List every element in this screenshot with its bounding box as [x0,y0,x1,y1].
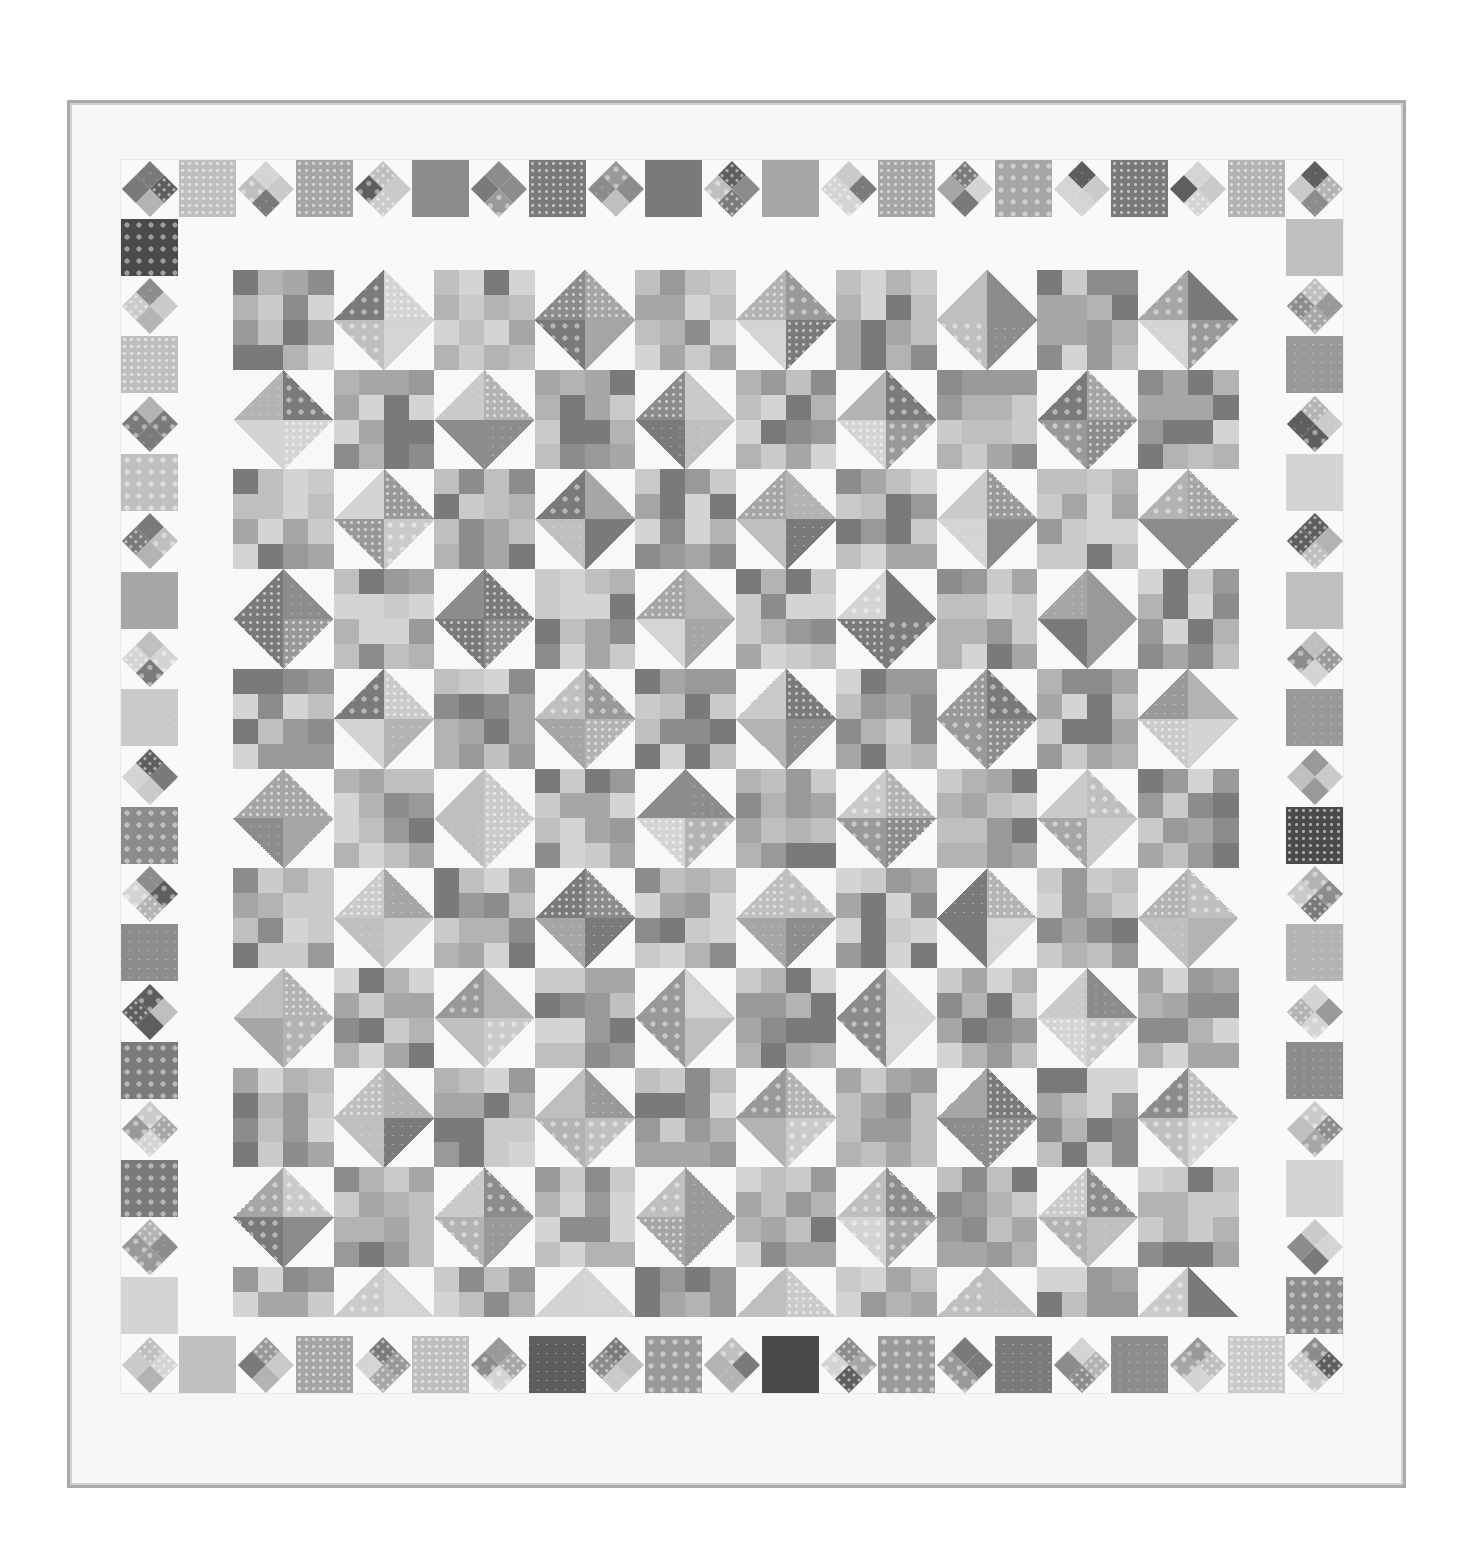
four-patch-square [484,345,510,370]
four-patch-square [861,544,887,569]
half-square-triangle [585,719,636,769]
half-square-triangle [585,1068,636,1118]
half-square-triangle [334,469,385,519]
four-patch [786,569,837,619]
four-patch-square [535,619,561,644]
four-patch [1087,469,1138,519]
four-patch-square [1138,968,1164,993]
half-square-triangle [585,469,636,519]
four-patch-square [535,843,561,868]
fabric-print [434,569,485,619]
four-patch-square [509,1267,535,1292]
four-patch-square [786,370,812,395]
four-patch-square [886,893,912,918]
four-patch-square [1213,1217,1239,1242]
four-patch-square [459,1142,485,1167]
four-patch-square [560,993,586,1018]
four-patch-square [786,769,812,794]
half-square-triangle [987,519,1038,569]
fabric-print [535,918,586,968]
four-patch [484,669,535,719]
fabric-print [1188,469,1239,519]
four-patch-square [585,818,611,843]
four-patch-square [560,1043,586,1068]
four-patch [937,569,988,619]
four-patch-square [459,918,485,943]
fabric-print [786,519,837,569]
four-patch-square [987,1167,1013,1192]
four-patch-square [736,1167,762,1192]
fabric-print [1138,918,1189,968]
four-patch-square [610,1242,636,1267]
half-square-triangle [535,1118,586,1168]
half-square-triangle [484,370,535,420]
four-patch [585,818,636,868]
half-square-triangle [937,669,988,719]
four-patch [434,270,485,320]
four-patch [1138,370,1189,420]
four-patch-square [736,1018,762,1043]
fabric-print [384,1118,435,1168]
four-patch [1188,370,1239,420]
four-patch-square [484,918,510,943]
four-patch-square [911,1267,937,1292]
fabric-print [987,469,1038,519]
half-square-triangle [1188,320,1239,370]
half-square-triangle [1138,320,1189,370]
four-patch-square [761,1043,787,1068]
four-patch [786,370,837,420]
four-patch-square [1213,444,1239,469]
four-patch-square [258,519,284,544]
half-square-triangle [384,868,435,918]
half-square-triangle [484,1018,535,1068]
fabric-print [484,968,535,1018]
four-patch-square [710,345,736,370]
four-patch [484,1118,535,1168]
half-square-triangle [937,1118,988,1168]
half-square-triangle [334,719,385,769]
four-patch-square [987,594,1013,619]
fabric-print [535,1118,586,1168]
four-patch-square [1163,444,1189,469]
border-square [1286,1160,1343,1217]
four-patch [233,669,284,719]
four-patch-square [836,1068,862,1093]
four-patch [635,320,686,370]
half-square-triangle [987,1267,1038,1317]
four-patch-square [1037,1267,1063,1292]
four-patch-square [560,793,586,818]
four-patch-square [1062,295,1088,320]
four-patch-square [610,1192,636,1217]
four-patch [1037,868,1088,918]
fabric-print [886,420,937,470]
four-patch [987,818,1038,868]
four-patch [334,1217,385,1267]
four-patch-square [1163,968,1189,993]
four-patch [585,370,636,420]
four-patch-square [359,444,385,469]
border-square [121,689,178,746]
four-patch-square [861,719,887,744]
fabric-print [685,769,736,819]
four-patch-square [660,1118,686,1143]
half-square-triangle [1087,619,1138,669]
four-patch-square [736,993,762,1018]
four-patch-square [761,968,787,993]
half-square-triangle [786,868,837,918]
fabric-print [886,569,937,619]
fabric-print [535,270,586,320]
four-patch-square [258,694,284,719]
fabric-print [1087,420,1138,470]
four-patch [685,469,736,519]
four-patch-square [283,1118,309,1143]
four-patch-square [1213,993,1239,1018]
fabric-print [484,818,535,868]
four-patch-square [434,1093,460,1118]
four-patch-square [384,370,410,395]
four-patch-square [258,918,284,943]
four-patch-square [736,644,762,669]
half-square-triangle [1087,1167,1138,1217]
four-patch-square [434,1292,460,1317]
four-patch-square [660,270,686,295]
four-patch [1138,818,1189,868]
